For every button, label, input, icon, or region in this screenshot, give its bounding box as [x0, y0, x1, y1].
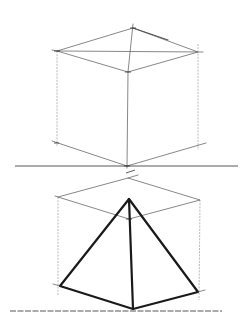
cube-top-face [52, 28, 198, 72]
pyramid-box-right-edge [199, 200, 200, 300]
vertex-tick [126, 170, 135, 173]
pyramid [10, 175, 222, 311]
cube [15, 24, 238, 173]
pyramid-base-left-extension [53, 284, 60, 286]
pyramid-front-edge [129, 199, 133, 309]
pyramid-box-back-extension [128, 175, 138, 178]
cube-front-edge [127, 72, 128, 168]
cube-bottom-right-edge [127, 143, 206, 166]
pyramid-box-top-face [55, 178, 200, 219]
perspective-drawing [0, 0, 246, 330]
cube-bottom-left-edge [52, 141, 127, 166]
cube-back-edge-guide [128, 24, 133, 72]
cube-top-front-right-edge [133, 28, 168, 40]
